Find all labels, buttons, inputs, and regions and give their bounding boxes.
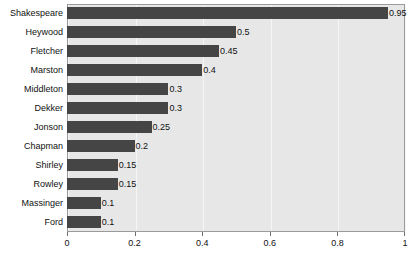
bar[interactable] — [67, 83, 168, 95]
x-tick-label: 1 — [402, 238, 407, 248]
category-label: Ford — [0, 213, 63, 232]
x-tick-mark — [270, 232, 271, 236]
bar-value-label: 0.3 — [169, 81, 182, 97]
x-tick-mark — [67, 232, 68, 236]
bar[interactable] — [67, 7, 388, 19]
category-label: Dekker — [0, 99, 63, 118]
bar-chart: 0.950.50.450.40.30.30.250.20.150.150.10.… — [0, 0, 415, 258]
bar[interactable] — [67, 140, 135, 152]
category-label: Chapman — [0, 137, 63, 156]
bar-row: 0.2 — [67, 137, 405, 156]
gridline — [405, 5, 406, 231]
category-label: Rowley — [0, 175, 63, 194]
x-tick-label: 0 — [64, 238, 69, 248]
category-label: Heywood — [0, 23, 63, 42]
x-tick-label: 0.6 — [264, 238, 277, 248]
bar-row: 0.1 — [67, 213, 405, 232]
x-tick-mark — [337, 232, 338, 236]
bar[interactable] — [67, 26, 236, 38]
category-label: Marston — [0, 61, 63, 80]
x-axis: 00.20.40.60.81 — [67, 232, 405, 258]
x-tick-label: 0.8 — [331, 238, 344, 248]
bar-value-label: 0.2 — [136, 138, 149, 154]
category-label: Fletcher — [0, 42, 63, 61]
bar[interactable] — [67, 64, 202, 76]
category-label: Massinger — [0, 194, 63, 213]
category-label: Middleton — [0, 80, 63, 99]
bar-row: 0.45 — [67, 42, 405, 61]
bar-value-label: 0.4 — [203, 62, 216, 78]
bar-value-label: 0.5 — [237, 24, 250, 40]
bar-value-label: 0.15 — [119, 157, 137, 173]
bar-value-label: 0.45 — [220, 43, 238, 59]
x-tick-label: 0.2 — [128, 238, 141, 248]
bar[interactable] — [67, 178, 118, 190]
x-tick-label: 0.4 — [196, 238, 209, 248]
bar-value-label: 0.1 — [102, 195, 115, 211]
bar[interactable] — [67, 102, 168, 114]
bar-value-label: 0.15 — [119, 176, 137, 192]
bar[interactable] — [67, 45, 219, 57]
bar[interactable] — [67, 121, 152, 133]
bar-row: 0.15 — [67, 175, 405, 194]
bar[interactable] — [67, 197, 101, 209]
category-axis-labels: ShakespeareHeywoodFletcherMarstonMiddlet… — [0, 4, 63, 232]
bar-row: 0.5 — [67, 23, 405, 42]
category-label: Jonson — [0, 118, 63, 137]
bar-value-label: 0.3 — [169, 100, 182, 116]
bars-layer: 0.950.50.450.40.30.30.250.20.150.150.10.… — [67, 4, 405, 232]
x-tick-mark — [404, 232, 405, 236]
bar-row: 0.3 — [67, 99, 405, 118]
bar[interactable] — [67, 159, 118, 171]
bar-row: 0.15 — [67, 156, 405, 175]
bar-row: 0.3 — [67, 80, 405, 99]
bar-row: 0.95 — [67, 4, 405, 23]
category-label: Shirley — [0, 156, 63, 175]
category-label: Shakespeare — [0, 4, 63, 23]
bar-value-label: 0.1 — [102, 214, 115, 230]
bar-value-label: 0.95 — [389, 5, 407, 21]
bar[interactable] — [67, 216, 101, 228]
x-tick-mark — [135, 232, 136, 236]
bar-row: 0.4 — [67, 61, 405, 80]
x-tick-mark — [202, 232, 203, 236]
bar-value-label: 0.25 — [153, 119, 171, 135]
bar-row: 0.1 — [67, 194, 405, 213]
bar-row: 0.25 — [67, 118, 405, 137]
